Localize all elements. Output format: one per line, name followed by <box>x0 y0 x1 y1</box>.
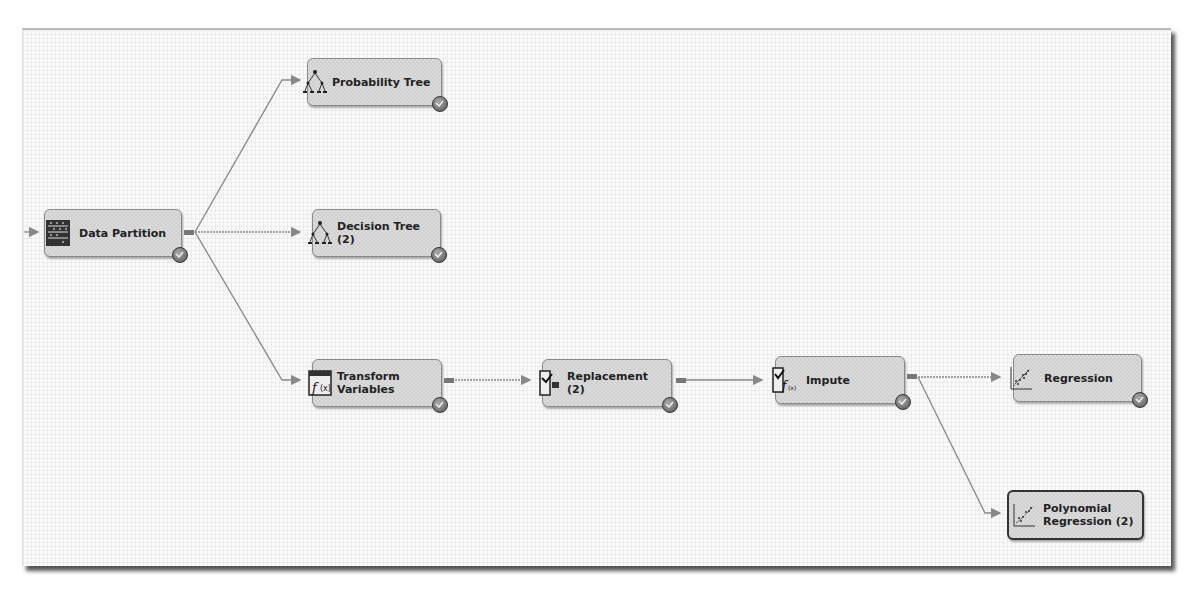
output-port[interactable] <box>184 230 194 235</box>
regression-icon <box>1008 363 1034 393</box>
status-complete-icon <box>432 96 448 112</box>
node-decision-tree-2[interactable]: Decision Tree (2) <box>312 209 441 257</box>
output-port[interactable] <box>444 378 454 383</box>
status-complete-icon <box>432 397 448 413</box>
node-replacement-2[interactable]: Replacement (2) <box>542 359 672 407</box>
edge-partition-to-probability-tree <box>195 80 300 232</box>
node-label: Decision Tree (2) <box>337 210 420 256</box>
node-transform-variables[interactable]: f (x) Transform Variables <box>312 359 442 407</box>
impute-icon: f (x) <box>770 365 796 395</box>
tree-icon <box>307 218 333 248</box>
svg-text:(x): (x) <box>788 384 796 391</box>
output-port[interactable] <box>907 374 917 379</box>
status-complete-icon <box>662 397 678 413</box>
regression-icon <box>1011 500 1037 530</box>
output-port[interactable] <box>676 378 686 383</box>
node-probability-tree[interactable]: Probability Tree <box>307 58 442 106</box>
node-regression[interactable]: Regression <box>1013 354 1142 402</box>
status-complete-icon <box>895 394 911 410</box>
transform-icon: f (x) <box>307 368 333 398</box>
data-partition-icon <box>45 218 71 248</box>
edge-partition-to-transform <box>195 232 300 380</box>
node-polynomial-regression-2[interactable]: Polynomial Regression (2) <box>1007 490 1144 540</box>
tree-icon <box>302 67 328 97</box>
node-label: Transform Variables <box>337 360 400 406</box>
status-complete-icon <box>1132 392 1148 408</box>
svg-text:(x): (x) <box>320 384 331 393</box>
status-complete-icon <box>172 247 188 263</box>
edge-impute-to-polynomial <box>918 377 1000 513</box>
node-data-partition[interactable]: Data Partition <box>44 209 182 257</box>
node-label: Data Partition <box>79 210 166 256</box>
status-complete-icon <box>431 247 447 263</box>
node-label: Polynomial Regression (2) <box>1043 492 1133 538</box>
replacement-icon <box>537 368 563 398</box>
node-label: Replacement (2) <box>567 360 648 406</box>
node-label: Probability Tree <box>332 59 430 105</box>
node-label: Regression <box>1044 355 1113 401</box>
node-label: Impute <box>806 357 850 403</box>
node-impute[interactable]: f (x) Impute <box>775 356 905 404</box>
